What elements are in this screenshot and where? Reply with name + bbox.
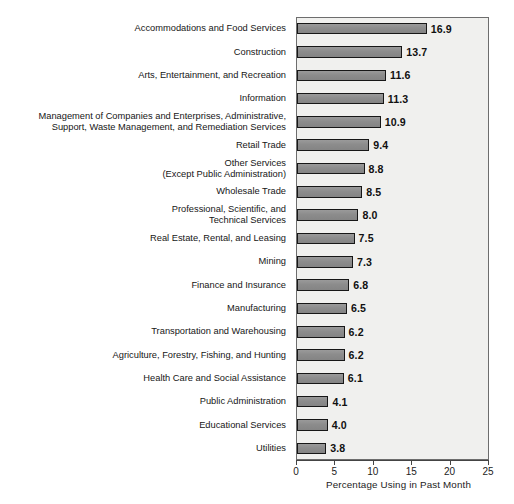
- bar-value-label: 16.9: [431, 23, 452, 35]
- bar-value-label: 10.9: [385, 116, 406, 128]
- category-label-text: Professional, Scientific, and Technical …: [172, 204, 286, 226]
- category-label: Manufacturing: [0, 297, 291, 320]
- category-label: Transportation and Warehousing: [0, 320, 291, 343]
- bar: [297, 419, 328, 431]
- category-label-text: Educational Services: [199, 420, 286, 431]
- bar-value-label: 6.1: [348, 372, 363, 384]
- category-label-text: Health Care and Social Assistance: [143, 373, 286, 384]
- bar-row: Utilities3.8: [0, 437, 514, 460]
- bar-group: 6.5: [297, 297, 366, 320]
- bar-value-label: 3.8: [330, 442, 345, 454]
- bar-row: Agriculture, Forestry, Fishing, and Hunt…: [0, 343, 514, 366]
- bar-value-label: 8.8: [369, 163, 384, 175]
- x-axis-tick: [411, 460, 412, 465]
- bar-group: 4.1: [297, 390, 348, 413]
- bar-group: 6.2: [297, 320, 364, 343]
- bar: [297, 209, 358, 221]
- bar-row: Construction13.7: [0, 40, 514, 63]
- bar: [297, 373, 344, 385]
- bar-group: 6.1: [297, 367, 363, 390]
- bar-row: Arts, Entertainment, and Recreation11.6: [0, 64, 514, 87]
- category-label: Accommodations and Food Services: [0, 17, 291, 40]
- x-axis-tick: [296, 460, 297, 465]
- bar-value-label: 9.4: [373, 139, 388, 151]
- bar: [297, 396, 328, 408]
- bar: [297, 349, 345, 361]
- category-label: Utilities: [0, 437, 291, 460]
- bar-group: 8.8: [297, 157, 384, 180]
- bar-row: Health Care and Social Assistance6.1: [0, 367, 514, 390]
- category-label: Management of Companies and Enterprises,…: [0, 110, 291, 133]
- bar: [297, 116, 381, 128]
- bar-group: 9.4: [297, 134, 388, 157]
- bar: [297, 163, 365, 175]
- bar: [297, 23, 427, 35]
- category-label: Construction: [0, 40, 291, 63]
- bar-value-label: 7.5: [359, 232, 374, 244]
- category-label: Retail Trade: [0, 134, 291, 157]
- bar-chart: Accommodations and Food Services16.9Cons…: [0, 0, 514, 504]
- bar-group: 3.8: [297, 437, 345, 460]
- category-label: Arts, Entertainment, and Recreation: [0, 64, 291, 87]
- x-axis-tick: [488, 460, 489, 465]
- category-label-text: Wholesale Trade: [216, 186, 286, 197]
- bar-row: Transportation and Warehousing6.2: [0, 320, 514, 343]
- bar-value-label: 8.5: [366, 186, 381, 198]
- bar-group: 7.3: [297, 250, 372, 273]
- bar-group: 11.6: [297, 64, 411, 87]
- bar-value-label: 6.2: [349, 349, 364, 361]
- bar: [297, 443, 326, 455]
- category-label-text: Accommodations and Food Services: [135, 23, 286, 34]
- category-label: Mining: [0, 250, 291, 273]
- category-label: Other Services (Except Public Administra…: [0, 157, 291, 180]
- category-label: Finance and Insurance: [0, 273, 291, 296]
- x-axis-tick: [373, 460, 374, 465]
- bar-value-label: 6.2: [349, 326, 364, 338]
- bar-row: Management of Companies and Enterprises,…: [0, 110, 514, 133]
- category-label-text: Mining: [259, 256, 286, 267]
- x-axis: 0510152025: [296, 460, 489, 461]
- category-label-text: Other Services (Except Public Administra…: [163, 158, 287, 180]
- bar: [297, 233, 355, 245]
- bar-group: 4.0: [297, 413, 347, 436]
- x-axis-tick: [334, 460, 335, 465]
- x-axis-tick: [450, 460, 451, 465]
- bar: [297, 326, 345, 338]
- bar-value-label: 4.0: [332, 419, 347, 431]
- bar-value-label: 4.1: [332, 396, 347, 408]
- bar: [297, 186, 362, 198]
- category-label-text: Management of Companies and Enterprises,…: [38, 111, 286, 133]
- category-label-text: Real Estate, Rental, and Leasing: [150, 233, 286, 244]
- category-label-text: Agriculture, Forestry, Fishing, and Hunt…: [113, 350, 286, 361]
- x-axis-tick-label: 5: [332, 466, 338, 477]
- category-label-text: Arts, Entertainment, and Recreation: [138, 70, 286, 81]
- bar: [297, 70, 386, 82]
- category-label-text: Public Administration: [200, 396, 286, 407]
- bar: [297, 46, 402, 58]
- category-label-text: Construction: [234, 47, 286, 58]
- bar-group: 16.9: [297, 17, 452, 40]
- category-label: Professional, Scientific, and Technical …: [0, 204, 291, 227]
- bar-row: Finance and Insurance6.8: [0, 273, 514, 296]
- category-label: Information: [0, 87, 291, 110]
- bar-value-label: 11.3: [388, 93, 408, 105]
- category-label-text: Transportation and Warehousing: [151, 326, 286, 337]
- bar-row: Wholesale Trade8.5: [0, 180, 514, 203]
- category-label: Public Administration: [0, 390, 291, 413]
- bar: [297, 139, 369, 151]
- bar-group: 11.3: [297, 87, 408, 110]
- bar-row: Information11.3: [0, 87, 514, 110]
- bar-row: Real Estate, Rental, and Leasing7.5: [0, 227, 514, 250]
- bar-row: Professional, Scientific, and Technical …: [0, 204, 514, 227]
- x-axis-tick-label: 20: [444, 466, 455, 477]
- bar-row: Educational Services4.0: [0, 413, 514, 436]
- bar-group: 8.5: [297, 180, 381, 203]
- bar-group: 13.7: [297, 40, 427, 63]
- x-axis-title: Percentage Using in Past Month: [296, 479, 501, 490]
- bar-group: 8.0: [297, 204, 377, 227]
- category-label-text: Retail Trade: [236, 140, 286, 151]
- bar-group: 10.9: [297, 110, 406, 133]
- bar: [297, 279, 349, 291]
- bar-group: 6.8: [297, 273, 368, 296]
- bar-row: Accommodations and Food Services16.9: [0, 17, 514, 40]
